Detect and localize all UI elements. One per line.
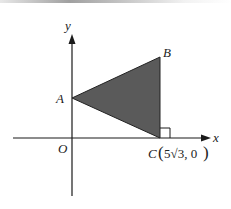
right-angle-marker bbox=[160, 128, 170, 138]
y-axis-label: y bbox=[63, 18, 71, 33]
origin-label: O bbox=[58, 141, 68, 156]
x-axis-label: x bbox=[212, 130, 219, 145]
coordinate-diagram: y x O A B C ( 5√3, 0 ) bbox=[0, 0, 231, 209]
point-c-label: C bbox=[148, 146, 157, 161]
point-b-label: B bbox=[163, 45, 171, 60]
x-axis-arrow-icon bbox=[201, 135, 211, 142]
coord-close-paren: ) bbox=[203, 143, 209, 162]
point-c-coordinates: 5√3, 0 bbox=[164, 146, 197, 161]
triangle-abc bbox=[72, 57, 160, 138]
point-a-label: A bbox=[55, 91, 64, 106]
y-axis-arrow-icon bbox=[69, 34, 76, 44]
